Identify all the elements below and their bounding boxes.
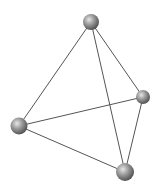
tetrahedron-canvas <box>0 0 161 195</box>
vertex-sphere-top <box>83 14 99 30</box>
edge-left-bottom <box>19 126 125 172</box>
tetrahedron-diagram <box>0 0 161 195</box>
vertex-sphere-right <box>136 90 150 104</box>
vertex-sphere-bottom <box>116 163 134 181</box>
edge-top-right <box>91 22 143 97</box>
edge-right-bottom <box>125 97 143 172</box>
vertex-sphere-left <box>11 118 28 135</box>
edge-top-bottom <box>91 22 125 172</box>
edges-group <box>19 22 143 172</box>
edge-left-right <box>19 97 143 126</box>
edge-top-left <box>19 22 91 126</box>
